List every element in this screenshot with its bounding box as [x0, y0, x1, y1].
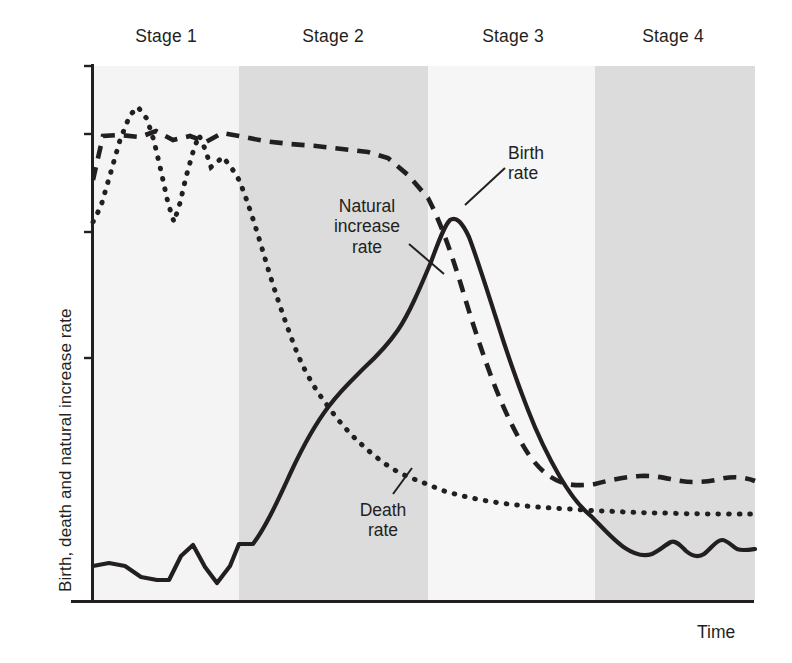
birth-rate-annotation: Birth rate	[508, 143, 544, 184]
natural-increase-rate-annotation-line2: increase	[334, 216, 400, 236]
death-rate-annotation-line1: Death	[360, 500, 407, 520]
natural-increase-rate-annotation-line3: rate	[334, 237, 400, 257]
stage-label-3: Stage 3	[482, 26, 544, 47]
y-axis-title: Birth, death and natural increase rate	[56, 52, 76, 592]
stage-label-4: Stage 4	[642, 26, 704, 47]
birth-rate-annotation-line1: Birth	[508, 143, 544, 163]
stage-band-1	[93, 66, 239, 600]
demographic-transition-figure: Stage 1 Stage 2 Stage 3 Stage 4 Birth, d…	[0, 0, 792, 663]
chart-canvas	[0, 0, 792, 663]
natural-increase-rate-annotation-line1: Natural	[334, 196, 400, 216]
death-rate-annotation-line2: rate	[360, 520, 407, 540]
birth-rate-annotation-line2: rate	[508, 163, 544, 183]
natural-increase-rate-annotation: Natural increase rate	[334, 196, 400, 257]
stage-band-4	[595, 66, 755, 600]
x-axis-title: Time	[697, 622, 735, 643]
death-rate-annotation: Death rate	[360, 500, 407, 541]
stage-bands	[93, 66, 755, 600]
stage-label-1: Stage 1	[135, 26, 197, 47]
stage-label-2: Stage 2	[302, 26, 364, 47]
